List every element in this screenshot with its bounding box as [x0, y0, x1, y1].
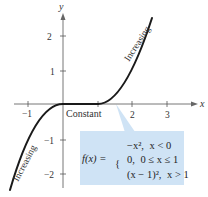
- label-constant: Constant: [66, 108, 102, 119]
- case-2-cond: 0 ≤ x ≤ 1: [141, 154, 179, 165]
- x-tick-label-neg1: −1: [22, 109, 32, 119]
- formula-lhs: f(x) =: [82, 153, 106, 165]
- formula-case-3: (x − 1)², x > 1: [127, 169, 189, 181]
- x-tick-label-2: 2: [130, 110, 135, 120]
- case-1-cond: x < 0: [150, 140, 172, 151]
- formula-case-2: 0, 0 ≤ x ≤ 1: [127, 154, 178, 165]
- y-axis-arrow-icon: [61, 13, 66, 20]
- y-tick-label-neg1: −1: [44, 136, 54, 146]
- x-axis-arrow-icon: [191, 102, 198, 107]
- x-axis-label: x: [199, 98, 205, 109]
- case-3-expr: (x − 1)²,: [127, 169, 161, 181]
- case-1-expr: −x²,: [127, 140, 144, 151]
- case-3-cond: x > 1: [167, 169, 189, 180]
- y-tick-label-neg2: −2: [44, 170, 54, 180]
- formula-brace: {: [115, 158, 120, 169]
- y-tick-label-2: 2: [47, 32, 52, 42]
- x-tick-label-3: 3: [165, 110, 170, 120]
- formula-case-1: −x², x < 0: [127, 140, 171, 151]
- y-tick-label-1: 1: [50, 67, 55, 77]
- y-axis: y 2 1 −1 −2: [44, 1, 66, 188]
- case-2-expr: 0,: [127, 154, 135, 165]
- y-axis-label: y: [58, 1, 64, 12]
- piecewise-function-figure: x −1 2 3 y 2 1 −1 −2 Increasing Increasi…: [0, 0, 208, 197]
